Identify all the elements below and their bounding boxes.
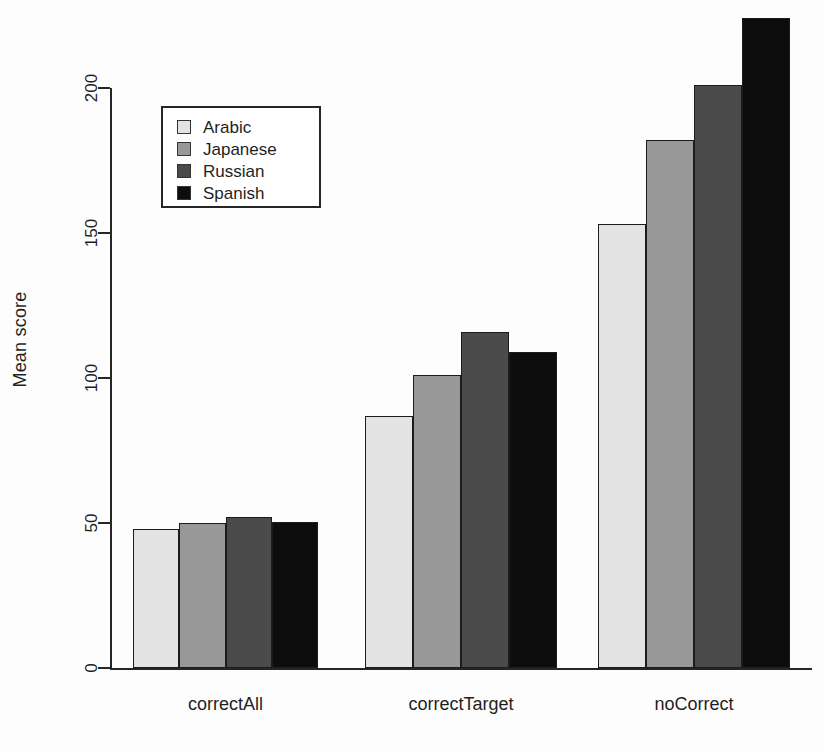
legend-item-label: Japanese (203, 141, 277, 158)
bar-correctAll-Russian (226, 517, 272, 668)
bar-correctAll-Arabic (133, 529, 179, 668)
legend-item-label: Arabic (203, 119, 251, 136)
bar-correctTarget-Spanish (509, 352, 557, 668)
legend-swatch-icon (177, 142, 191, 156)
bar-chart: Mean score 050100150200 correctAllcorrec… (0, 0, 823, 751)
bar-noCorrect-Russian (694, 85, 742, 668)
x-axis-label-correctAll: correctAll (133, 694, 318, 715)
legend-rows: ArabicJapaneseRussianSpanish (177, 116, 319, 204)
legend-swatch-icon (177, 186, 191, 200)
bar-noCorrect-Japanese (646, 140, 694, 668)
legend-item-label: Spanish (203, 185, 264, 202)
x-axis-label-correctTarget: correctTarget (365, 694, 557, 715)
legend-swatch-icon (177, 164, 191, 178)
legend-item-russian: Russian (177, 160, 319, 182)
bar-noCorrect-Arabic (598, 224, 646, 668)
bar-correctTarget-Arabic (365, 416, 413, 668)
bar-correctTarget-Japanese (413, 375, 461, 668)
legend: ArabicJapaneseRussianSpanish (161, 106, 321, 208)
legend-item-japanese: Japanese (177, 138, 319, 160)
bar-noCorrect-Spanish (742, 18, 790, 668)
legend-item-spanish: Spanish (177, 182, 319, 204)
bar-correctAll-Spanish (272, 522, 318, 668)
legend-item-arabic: Arabic (177, 116, 319, 138)
bar-correctTarget-Russian (461, 332, 509, 668)
plot-area (0, 0, 823, 751)
legend-swatch-icon (177, 120, 191, 134)
bar-correctAll-Japanese (179, 523, 225, 668)
x-axis-label-noCorrect: noCorrect (598, 694, 790, 715)
legend-item-label: Russian (203, 163, 264, 180)
